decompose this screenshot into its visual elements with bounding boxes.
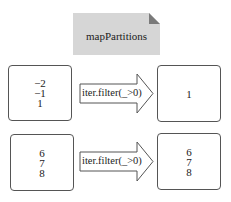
operation-note: mapPartitions — [73, 13, 160, 55]
input-partition-2: 6 7 8 — [10, 134, 74, 191]
operation-title: mapPartitions — [73, 13, 160, 55]
input-partition-1: −2 −1 1 — [8, 65, 72, 121]
transform-arrow-1: iter.filter(_>0) — [79, 73, 154, 115]
partition-value: 6 — [39, 148, 45, 158]
partition-value: 8 — [186, 167, 192, 177]
output-partition-1: 1 — [157, 65, 221, 122]
partition-value: 6 — [186, 147, 192, 157]
partition-value: 7 — [186, 157, 192, 167]
transform-arrow-2: iter.filter(_>0) — [79, 141, 154, 183]
transform-label: iter.filter(_>0) — [82, 83, 140, 102]
partition-value: 1 — [186, 89, 192, 99]
output-partition-2: 6 7 8 — [157, 133, 221, 190]
partition-value: 7 — [39, 158, 45, 168]
partition-value: 8 — [39, 168, 45, 178]
transform-label: iter.filter(_>0) — [82, 151, 140, 170]
partition-value: 1 — [37, 98, 43, 108]
